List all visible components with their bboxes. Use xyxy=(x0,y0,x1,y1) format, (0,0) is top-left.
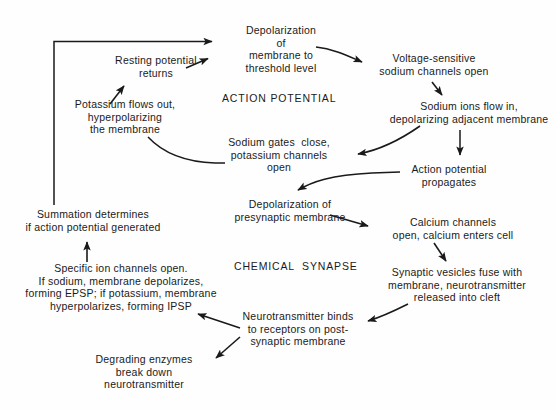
node-depolarization-presynaptic: Depolarization of presynaptic membrane xyxy=(224,198,356,223)
node-calcium-channels-open: Calcium channels open, calcium enters ce… xyxy=(385,216,521,241)
arrow-voltage-to-sodium-ions xyxy=(432,82,442,95)
label-action-potential: ACTION POTENTIAL xyxy=(222,92,334,105)
arrow-sodium-ions-to-gates-close xyxy=(358,126,420,154)
node-sodium-gates-close: Sodium gates close, potassium channels o… xyxy=(219,136,339,174)
arrow-gates-close-to-potassium-out xyxy=(148,137,225,163)
node-synaptic-vesicles-fuse: Synaptic vesicles fuse with membrane, ne… xyxy=(378,266,536,304)
arrow-propagates-to-presynaptic xyxy=(298,172,400,190)
node-action-potential-propagates: Action potential propagates xyxy=(400,163,498,188)
arrow-calcium-to-vesicles xyxy=(434,243,446,261)
node-voltage-sensitive-channels: Voltage-sensitive sodium channels open xyxy=(372,52,496,77)
node-specific-ion-channels: Specific ion channels open. If sodium, m… xyxy=(14,262,228,312)
node-resting-potential-returns: Resting potential returns xyxy=(104,54,208,79)
node-sodium-ions-flow-in: Sodium ions flow in, depolarizing adjace… xyxy=(383,100,555,125)
node-depolarization-threshold: Depolarization of membrane to threshold … xyxy=(220,24,342,74)
label-chemical-synapse: CHEMICAL SYNAPSE xyxy=(234,260,350,273)
node-potassium-flows-out: Potassium flows out, hyperpolarizing the… xyxy=(60,98,190,136)
node-summation-determines: Summation determines if action potential… xyxy=(16,208,170,233)
node-neurotransmitter-binds: Neurotransmitter binds to receptors on p… xyxy=(234,310,362,348)
flow-chart-diagram: Depolarization of membrane to threshold … xyxy=(0,0,556,410)
arrow-vesicles-to-neurotransmitter-binds xyxy=(368,304,408,321)
node-degrading-enzymes: Degrading enzymes break down neurotransm… xyxy=(82,353,206,391)
